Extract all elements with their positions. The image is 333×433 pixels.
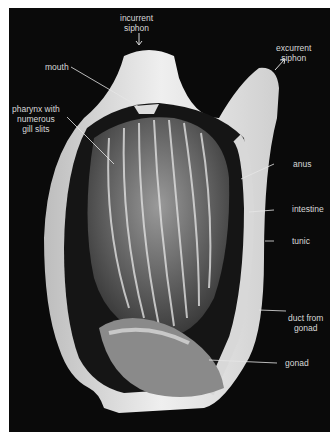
label-anus: anus <box>293 159 311 169</box>
label-text: anus <box>293 159 311 169</box>
label-duct-from-gonad: duct from gonad <box>288 313 323 333</box>
label-text: tunic <box>292 236 310 246</box>
label-excurrent-siphon: excurrent siphon <box>276 43 311 63</box>
label-text: duct from <box>288 313 323 323</box>
label-text: excurrent <box>276 43 311 53</box>
label-mouth: mouth <box>45 62 69 72</box>
label-text: numerous <box>12 114 60 124</box>
label-text: incurrent <box>120 13 153 23</box>
label-text: mouth <box>45 62 69 72</box>
tunicate-model-photo: incurrent siphon excurrent siphon mouth … <box>9 8 330 432</box>
label-text: intestine <box>292 204 324 214</box>
label-pharynx: pharynx with numerous gill slits <box>12 104 60 134</box>
label-text: siphon <box>276 53 311 63</box>
label-tunic: tunic <box>292 236 310 246</box>
label-text: gill slits <box>12 124 60 134</box>
label-incurrent-siphon: incurrent siphon <box>120 13 153 33</box>
label-text: gonad <box>288 323 323 333</box>
label-gonad: gonad <box>285 358 309 368</box>
label-intestine: intestine <box>292 204 324 214</box>
label-text: pharynx with <box>12 104 60 114</box>
label-text: gonad <box>285 358 309 368</box>
label-text: siphon <box>120 23 153 33</box>
